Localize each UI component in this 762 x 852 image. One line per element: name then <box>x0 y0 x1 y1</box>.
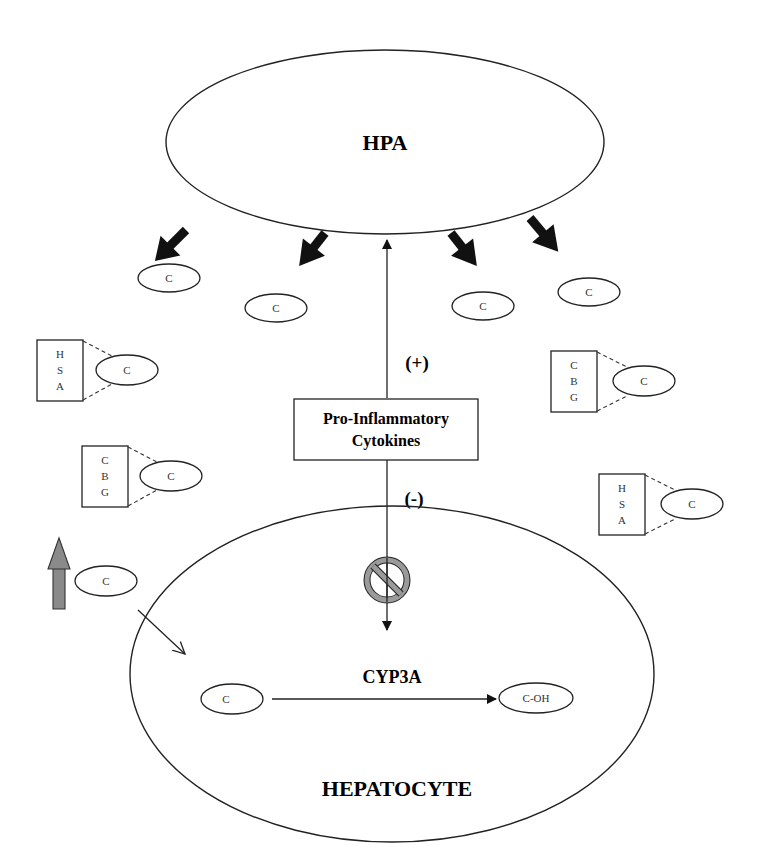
release-arrow-4 <box>519 209 569 261</box>
plus-sign: (+) <box>405 352 428 374</box>
svg-text:C-OH: C-OH <box>523 692 550 704</box>
svg-text:G: G <box>101 486 109 498</box>
hepatocyte-label: HEPATOCYTE <box>322 776 472 801</box>
cbg-cortisol-complex-right: C B G C <box>551 351 675 412</box>
svg-text:C: C <box>272 302 279 314</box>
cytokines-line2: Cytokines <box>352 432 420 450</box>
svg-text:A: A <box>56 380 64 392</box>
svg-text:C: C <box>570 359 577 371</box>
hpa-node: HPA <box>166 50 604 234</box>
svg-text:C: C <box>585 286 592 298</box>
cortisol-molecule: C <box>452 292 514 320</box>
svg-text:S: S <box>619 498 625 510</box>
svg-text:B: B <box>101 470 108 482</box>
svg-text:C: C <box>479 300 486 312</box>
cortisol-molecule: C <box>245 294 307 322</box>
free-cortisol-molecules: C C C C <box>138 264 620 322</box>
svg-text:G: G <box>570 391 578 403</box>
hsa-cortisol-complex-left: H S A C <box>37 340 158 401</box>
hsa-cortisol-complex-right: H S A C <box>599 474 723 535</box>
cbg-cortisol-complex-left: C B G C <box>82 446 202 507</box>
inhibition-icon <box>367 558 407 602</box>
diagram-canvas: HPA C C C <box>0 0 762 852</box>
svg-text:C: C <box>101 454 108 466</box>
cortisol-molecule-inside: C <box>201 684 263 714</box>
release-arrow-2 <box>288 224 336 274</box>
hpa-label: HPA <box>363 130 408 155</box>
svg-text:B: B <box>570 375 577 387</box>
cortisol-molecule: C <box>558 278 620 306</box>
svg-text:C: C <box>640 375 647 387</box>
svg-text:C: C <box>688 498 695 510</box>
release-arrow-3 <box>440 224 488 274</box>
svg-text:C: C <box>167 470 174 482</box>
svg-text:C: C <box>102 575 109 587</box>
svg-text:C: C <box>222 693 229 705</box>
cyp3a-label: CYP3A <box>363 667 422 687</box>
cytokines-box: Pro-Inflammatory Cytokines <box>294 399 478 460</box>
hydroxylated-cortisol-molecule: C-OH <box>499 683 573 713</box>
svg-text:H: H <box>56 348 64 360</box>
cortisol-molecule-outside: C <box>75 566 137 596</box>
svg-text:C: C <box>123 364 130 376</box>
cortisol-molecule: C <box>138 264 200 292</box>
uptake-arrow <box>138 610 185 654</box>
svg-text:C: C <box>165 272 172 284</box>
cytokines-line1: Pro-Inflammatory <box>323 410 449 428</box>
svg-text:S: S <box>57 364 63 376</box>
increase-arrow-icon <box>48 538 70 609</box>
svg-text:H: H <box>618 482 626 494</box>
svg-text:A: A <box>618 514 626 526</box>
